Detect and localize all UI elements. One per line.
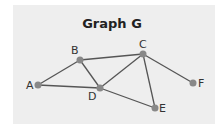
edge-b-d [80, 60, 100, 88]
node-c [140, 51, 147, 58]
edge-c-d [100, 54, 143, 88]
edge-a-d [38, 85, 100, 88]
edges [38, 54, 193, 108]
graph-title: Graph G [82, 16, 142, 31]
node-d [97, 85, 104, 92]
label-e: E [159, 102, 166, 115]
label-b: B [71, 44, 79, 57]
node-e [152, 105, 159, 112]
nodes [35, 51, 197, 112]
edge-a-b [38, 60, 80, 85]
node-a [35, 82, 42, 89]
edge-c-f [143, 54, 193, 83]
graph-diagram: Graph G A B C D E F [0, 0, 224, 124]
edge-b-c [80, 54, 143, 60]
label-f: F [198, 77, 204, 90]
label-a: A [26, 79, 34, 92]
label-d: D [88, 90, 96, 103]
node-b [77, 57, 84, 64]
edge-d-e [100, 88, 155, 108]
edge-c-e [143, 54, 155, 108]
label-c: C [139, 38, 147, 51]
node-f [190, 80, 197, 87]
